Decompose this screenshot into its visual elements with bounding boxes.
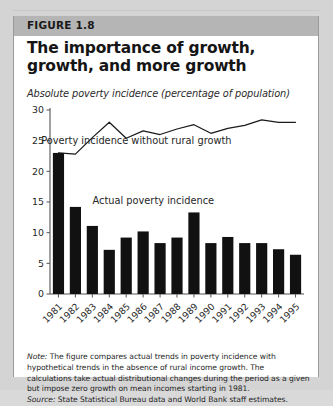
bar-1982 <box>70 207 81 294</box>
bar-1987 <box>154 243 165 294</box>
source-text: State Statistical Bureau data and World … <box>55 395 287 404</box>
figure-note: Note: The figure compares actual trends … <box>27 352 311 406</box>
svg-text:30: 30 <box>32 104 44 115</box>
note-label: Note: <box>27 352 47 361</box>
figure-source: Source: State Statistical Bureau data an… <box>27 395 311 406</box>
bar-1986 <box>138 231 149 294</box>
bar-1993 <box>256 243 267 294</box>
poverty-incidence-chart: 051015202530Poverty incidence without ru… <box>22 104 312 346</box>
figure-title: The importance of growth, growth, and mo… <box>27 40 305 75</box>
chart-area: 051015202530Poverty incidence without ru… <box>22 104 312 346</box>
bar-1991 <box>222 237 233 294</box>
bar-1995 <box>290 255 301 294</box>
figure-header-band: FIGURE 1.8 <box>14 16 318 36</box>
bar-1985 <box>121 238 132 294</box>
chart-annotation-1: Poverty incidence without rural growth <box>41 135 231 146</box>
bar-1992 <box>239 243 250 294</box>
figure-subtitle: Absolute poverty incidence (percentage o… <box>27 88 309 99</box>
svg-text:5: 5 <box>38 258 44 269</box>
bar-1988 <box>171 238 182 294</box>
bar-1981 <box>53 153 64 294</box>
svg-text:10: 10 <box>32 227 44 238</box>
figure-card: FIGURE 1.8 The importance of growth, gro… <box>13 16 319 377</box>
note-text: The figure compares actual trends in pov… <box>27 352 310 393</box>
top-divider <box>13 10 319 11</box>
svg-text:15: 15 <box>32 196 44 207</box>
bar-1994 <box>273 249 284 294</box>
source-label: Source: <box>27 395 55 404</box>
svg-text:20: 20 <box>32 166 44 177</box>
x-tick-label-1995: 1995 <box>277 301 301 325</box>
figure-number-label: FIGURE 1.8 <box>27 19 95 31</box>
svg-text:0: 0 <box>38 288 44 299</box>
chart-annotation-2: Actual poverty incidence <box>93 195 215 206</box>
bar-1989 <box>188 212 199 294</box>
bar-1990 <box>205 243 216 294</box>
bar-1984 <box>104 250 115 294</box>
bar-1983 <box>87 226 98 294</box>
